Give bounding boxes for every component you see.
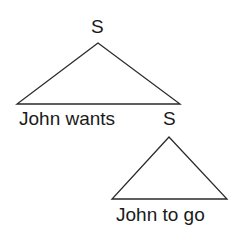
root-leaves-text: John wants (19, 109, 115, 128)
root-node-label: S (91, 17, 104, 36)
embedded-leaves-text: John to go (116, 205, 205, 224)
root-triangle (17, 43, 180, 104)
embedded-triangle (112, 137, 227, 199)
embedded-node-label: S (163, 109, 176, 128)
